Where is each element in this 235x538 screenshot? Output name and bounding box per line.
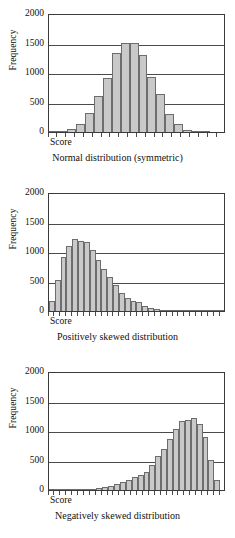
histogram-bar xyxy=(139,55,148,133)
histogram-panel-normal: Frequency 2000 1500 1000 500 0 Score Nor… xyxy=(0,0,235,179)
x-axis-tick xyxy=(219,312,225,316)
y-tick-0: 0 xyxy=(39,485,44,495)
x-axis-tick xyxy=(216,133,225,137)
x-axis-tick xyxy=(219,491,225,495)
y-axis-tick-labels: 2000 1500 1000 500 0 xyxy=(14,371,44,491)
y-axis-tick-labels: 2000 1500 1000 500 0 xyxy=(14,13,44,133)
plot-area-negative-skew xyxy=(48,372,225,491)
x-axis-ticks-negative-skew xyxy=(48,491,225,495)
histogram-panel-positive-skew: Frequency 2000 1500 1000 500 0 Score Pos… xyxy=(0,179,235,358)
histogram-bar xyxy=(156,94,165,132)
histogram-bar xyxy=(94,96,103,132)
bar-series-positive-skew xyxy=(49,194,224,311)
histogram-bar xyxy=(165,114,174,132)
histogram-bar xyxy=(174,124,183,132)
histogram-bar xyxy=(147,77,156,132)
y-tick-1500: 1500 xyxy=(25,397,44,407)
bar-series-normal xyxy=(49,15,224,132)
histogram-bar xyxy=(67,129,76,133)
y-tick-1500: 1500 xyxy=(25,218,44,228)
panel-caption-normal: Normal distribution (symmetric) xyxy=(0,152,235,163)
y-tick-500: 500 xyxy=(30,277,44,287)
histogram-bar xyxy=(130,43,139,133)
x-axis-label: Score xyxy=(50,316,72,326)
histogram-bar xyxy=(112,53,121,132)
histogram-bar xyxy=(121,43,130,132)
y-tick-0: 0 xyxy=(39,306,44,316)
histogram-bar xyxy=(201,131,210,132)
y-tick-2000: 2000 xyxy=(25,188,44,198)
plot-area-positive-skew xyxy=(48,193,225,312)
figure-container: Frequency 2000 1500 1000 500 0 Score Nor… xyxy=(0,0,235,538)
histogram-bar xyxy=(49,131,58,132)
histogram-bar xyxy=(183,130,192,132)
y-tick-1500: 1500 xyxy=(25,39,44,49)
y-tick-2000: 2000 xyxy=(25,9,44,19)
panel-caption-positive-skew: Positively skewed distribution xyxy=(0,331,235,342)
histogram-bar xyxy=(58,131,67,132)
x-axis-label: Score xyxy=(50,137,72,147)
y-tick-1000: 1000 xyxy=(25,426,44,436)
bar-series-negative-skew xyxy=(49,373,224,490)
histogram-bar xyxy=(214,480,220,490)
y-tick-500: 500 xyxy=(30,456,44,466)
y-tick-0: 0 xyxy=(39,127,44,137)
y-tick-500: 500 xyxy=(30,98,44,108)
histogram-bar xyxy=(76,124,85,132)
plot-area-normal xyxy=(48,14,225,133)
histogram-bar xyxy=(85,113,94,132)
x-axis-ticks-positive-skew xyxy=(48,312,225,316)
x-axis-label: Score xyxy=(50,495,72,505)
y-tick-1000: 1000 xyxy=(25,247,44,257)
panel-caption-negative-skew: Negatively skewed distribution xyxy=(0,510,235,521)
histogram-panel-negative-skew: Frequency 2000 1500 1000 500 0 Score Neg… xyxy=(0,358,235,537)
y-tick-2000: 2000 xyxy=(25,367,44,377)
histogram-bar xyxy=(103,78,112,132)
histogram-bar xyxy=(192,131,201,132)
y-axis-tick-labels: 2000 1500 1000 500 0 xyxy=(14,192,44,312)
histogram-bar xyxy=(218,310,224,311)
x-axis-ticks-normal xyxy=(48,133,225,137)
y-tick-1000: 1000 xyxy=(25,68,44,78)
